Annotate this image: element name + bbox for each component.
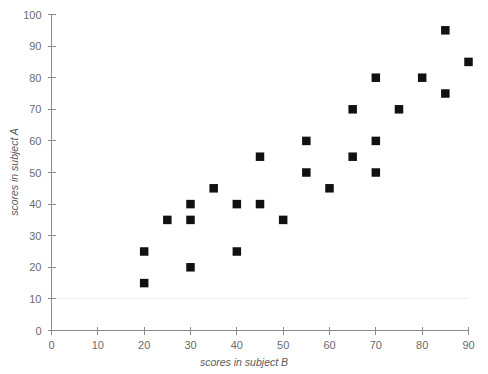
data-point <box>372 168 381 177</box>
x-tick-label-80: 80 <box>416 339 428 351</box>
y-axis-title: scores in subject A <box>8 128 20 216</box>
tick-marks-layer <box>48 15 469 335</box>
data-point <box>302 168 311 177</box>
y-tick-labels: 0102030405060708090100 <box>23 9 41 337</box>
data-point <box>279 216 288 225</box>
y-tick-label-70: 70 <box>29 103 41 115</box>
data-point <box>418 73 427 82</box>
x-tick-label-20: 20 <box>138 339 150 351</box>
x-tick-label-50: 50 <box>277 339 289 351</box>
data-point <box>186 216 195 225</box>
data-point <box>233 200 242 209</box>
data-point <box>186 200 195 209</box>
data-point <box>302 137 311 146</box>
y-tick-label-0: 0 <box>35 325 41 337</box>
data-point <box>325 184 334 193</box>
scatter-chart: 0102030405060708090 01020304050607080901… <box>0 0 488 374</box>
x-tick-labels: 0102030405060708090 <box>48 339 474 351</box>
x-tick-label-90: 90 <box>462 339 474 351</box>
data-point <box>441 26 450 35</box>
x-tick-label-70: 70 <box>370 339 382 351</box>
x-tick-label-40: 40 <box>231 339 243 351</box>
x-tick-label-10: 10 <box>92 339 104 351</box>
x-tick-label-30: 30 <box>184 339 196 351</box>
y-tick-label-100: 100 <box>23 9 41 21</box>
data-point <box>372 73 381 82</box>
x-tick-label-60: 60 <box>323 339 335 351</box>
axes-layer <box>52 15 469 331</box>
y-tick-label-90: 90 <box>29 40 41 52</box>
data-point <box>372 137 381 146</box>
x-axis-title: scores in subject B <box>200 356 288 368</box>
y-tick-label-20: 20 <box>29 261 41 273</box>
y-tick-label-40: 40 <box>29 198 41 210</box>
data-point <box>348 152 357 161</box>
data-points-layer <box>140 26 473 287</box>
data-point <box>395 105 404 114</box>
data-point <box>464 58 473 67</box>
data-point <box>348 105 357 114</box>
data-point <box>233 247 242 256</box>
data-point <box>441 89 450 98</box>
y-tick-label-50: 50 <box>29 167 41 179</box>
y-tick-label-80: 80 <box>29 72 41 84</box>
y-tick-label-10: 10 <box>29 293 41 305</box>
data-point <box>256 152 265 161</box>
plot-canvas: 0102030405060708090 01020304050607080901… <box>0 0 488 374</box>
data-point <box>186 263 195 272</box>
data-point <box>163 216 172 225</box>
data-point <box>140 247 149 256</box>
data-point <box>209 184 218 193</box>
data-point <box>256 200 265 209</box>
y-tick-label-30: 30 <box>29 230 41 242</box>
x-tick-label-0: 0 <box>48 339 54 351</box>
y-tick-label-60: 60 <box>29 135 41 147</box>
data-point <box>140 279 149 288</box>
